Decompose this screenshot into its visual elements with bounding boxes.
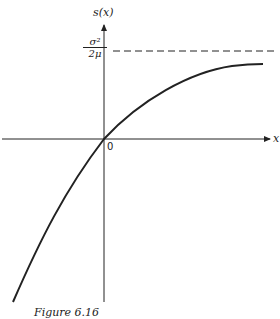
asymptote-denominator: 2μ [83,48,107,59]
y-axis-label: s(x) [93,6,113,19]
asymptote-numerator: σ² [83,36,107,48]
asymptote-label: σ² 2μ [83,36,107,59]
origin-label: 0 [107,141,113,152]
x-axis-label: x [273,132,279,145]
figure-caption: Figure 6.16 [34,306,99,319]
s-of-x-curve [13,64,263,302]
diagram-canvas [0,0,280,319]
